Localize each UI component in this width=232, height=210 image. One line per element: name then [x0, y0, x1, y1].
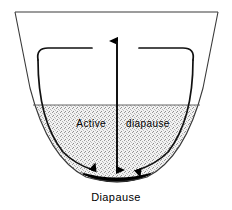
- diapause-diagram-figure: Activediapause Diapause: [0, 0, 232, 210]
- diapause-label: Diapause: [0, 191, 232, 203]
- active-diapause-label-word-1: Active: [46, 118, 116, 129]
- left-descending-arrow-shoulder: [38, 48, 92, 60]
- active-diapause-label: Activediapause: [44, 118, 188, 129]
- right-descending-arrow-shoulder: [139, 48, 193, 60]
- diagram-canvas: [0, 0, 232, 210]
- active-diapause-label-word-2: diapause: [116, 118, 186, 129]
